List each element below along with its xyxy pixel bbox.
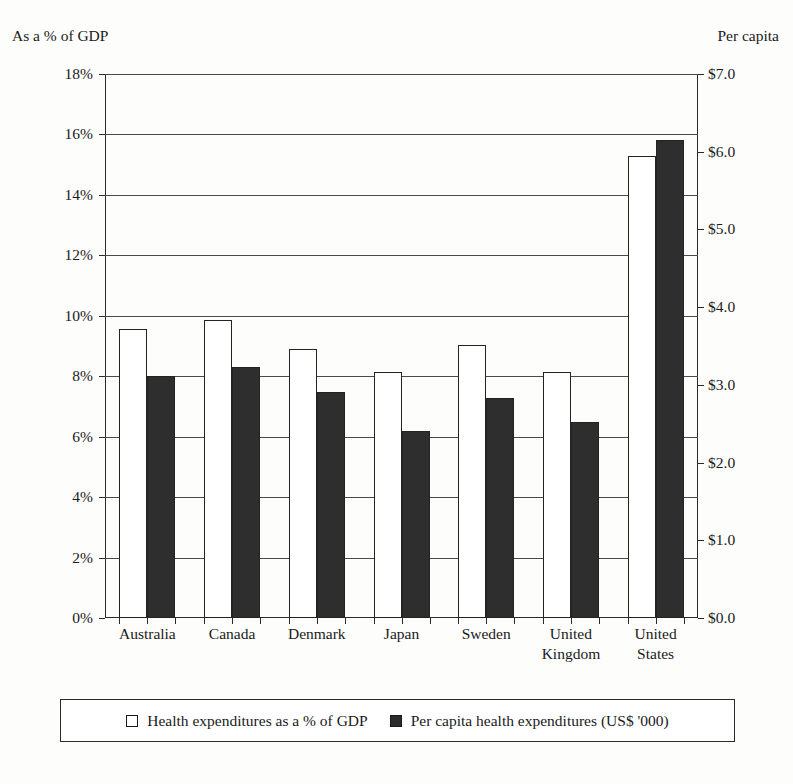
- right-axis-tick: [698, 307, 704, 308]
- category-label-line: Denmark: [274, 624, 359, 644]
- category-label-line: Sweden: [444, 624, 529, 644]
- gridline: [105, 255, 698, 256]
- left-axis-tick-label: 12%: [7, 246, 93, 264]
- left-axis-tick-label: 10%: [7, 307, 93, 325]
- category-label: Japan: [359, 624, 444, 644]
- bar-group: [628, 140, 684, 618]
- category-label: UnitedStates: [613, 624, 698, 665]
- bar-health-pct-gdp: [374, 372, 402, 618]
- right-axis-tick: [698, 229, 704, 230]
- bar-health-pct-gdp: [204, 320, 232, 618]
- left-axis-tick-label: 8%: [7, 367, 93, 385]
- gridline: [105, 134, 698, 135]
- category-label: Canada: [190, 624, 275, 644]
- bar-per-capita: [571, 422, 599, 618]
- category-label-line: Japan: [359, 624, 444, 644]
- category-label-line: United: [529, 624, 614, 644]
- right-axis-tick-label: $6.0: [708, 143, 793, 161]
- right-axis-caption: Per capita: [717, 27, 779, 45]
- category-label-line: States: [613, 644, 698, 664]
- left-axis-tick-label: 6%: [7, 428, 93, 446]
- right-axis-tick-label: $3.0: [708, 376, 793, 394]
- bar-health-pct-gdp: [543, 372, 571, 618]
- bar-health-pct-gdp: [289, 349, 317, 618]
- category-label-line: Australia: [105, 624, 190, 644]
- right-axis-tick-label: $0.0: [708, 609, 793, 627]
- category-label: Australia: [105, 624, 190, 644]
- plot-area: 0%2%4%6%8%10%12%14%16%18% $0.0$1.0$2.0$3…: [105, 74, 698, 618]
- bar-health-pct-gdp: [628, 156, 656, 618]
- bar-group: [119, 329, 175, 618]
- bar-per-capita: [232, 367, 260, 618]
- right-axis-tick: [698, 385, 704, 386]
- right-axis-tick-label: $1.0: [708, 531, 793, 549]
- bar-per-capita: [656, 140, 684, 618]
- right-axis-tick: [698, 618, 704, 619]
- right-axis-tick-label: $7.0: [708, 65, 793, 83]
- right-axis-tick: [698, 152, 704, 153]
- category-label: Sweden: [444, 624, 529, 644]
- bar-per-capita: [317, 392, 345, 618]
- bar-health-pct-gdp: [458, 345, 486, 619]
- left-axis-tick: [99, 134, 105, 135]
- right-axis-tick: [698, 74, 704, 75]
- category-label-line: United: [613, 624, 698, 644]
- legend-item-label: Per capita health expenditures (US$ '000…: [411, 712, 669, 730]
- left-axis-tick-label: 0%: [7, 609, 93, 627]
- left-axis-tick: [99, 437, 105, 438]
- legend-item-label: Health expenditures as a % of GDP: [147, 712, 367, 730]
- gridline: [105, 195, 698, 196]
- left-axis-tick-label: 4%: [7, 488, 93, 506]
- category-label-line: Kingdom: [529, 644, 614, 664]
- left-axis-tick-label: 18%: [7, 65, 93, 83]
- left-axis-tick: [99, 255, 105, 256]
- bar-group: [289, 349, 345, 618]
- right-axis-tick-label: $2.0: [708, 454, 793, 472]
- filled-square-icon: [390, 715, 402, 727]
- right-axis-tick: [698, 463, 704, 464]
- bar-group: [543, 372, 599, 618]
- legend-item[interactable]: Health expenditures as a % of GDP: [126, 712, 367, 730]
- right-axis-tick-label: $4.0: [708, 298, 793, 316]
- left-axis-tick: [99, 74, 105, 75]
- left-axis-tick: [99, 558, 105, 559]
- left-axis-tick-label: 16%: [7, 125, 93, 143]
- bar-per-capita: [486, 398, 514, 618]
- legend-item[interactable]: Per capita health expenditures (US$ '000…: [390, 712, 669, 730]
- left-axis-tick: [99, 195, 105, 196]
- right-axis-tick: [698, 540, 704, 541]
- left-axis-tick-label: 2%: [7, 549, 93, 567]
- left-axis-tick: [99, 376, 105, 377]
- open-square-icon: [126, 715, 138, 727]
- bar-group: [204, 320, 260, 618]
- category-label: UnitedKingdom: [529, 624, 614, 665]
- left-axis-tick: [99, 316, 105, 317]
- bar-per-capita: [147, 376, 175, 618]
- gridline: [105, 316, 698, 317]
- category-label-line: Canada: [190, 624, 275, 644]
- bar-group: [374, 372, 430, 618]
- right-axis-tick-label: $5.0: [708, 220, 793, 238]
- bar-health-pct-gdp: [119, 329, 147, 618]
- chart-legend: Health expenditures as a % of GDPPer cap…: [60, 699, 735, 742]
- left-axis-tick: [99, 497, 105, 498]
- left-axis-caption: As a % of GDP: [12, 27, 108, 45]
- gridline: [105, 74, 698, 75]
- category-label: Denmark: [274, 624, 359, 644]
- left-axis-tick: [99, 618, 105, 619]
- bar-group: [458, 345, 514, 619]
- chart-container: As a % of GDP Per capita 0%2%4%6%8%10%12…: [0, 0, 793, 784]
- bar-per-capita: [402, 431, 430, 618]
- left-axis-tick-label: 14%: [7, 186, 93, 204]
